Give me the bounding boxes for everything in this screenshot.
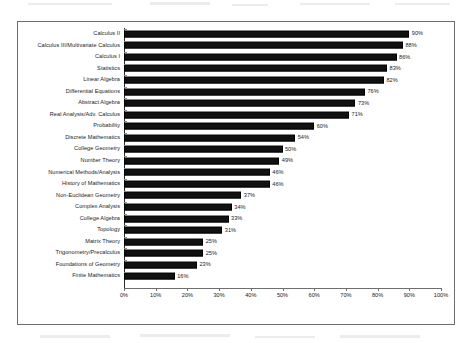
bar-category-label: Topology bbox=[18, 227, 124, 233]
y-axis-tick bbox=[124, 202, 127, 203]
x-axis-tick-label: 70% bbox=[340, 293, 351, 299]
x-axis-tick-label: 30% bbox=[213, 293, 224, 299]
x-axis-tick-label: 80% bbox=[372, 293, 383, 299]
x-axis-tick bbox=[409, 288, 410, 291]
y-axis-tick bbox=[124, 260, 127, 261]
bar-value-label: 25% bbox=[206, 239, 217, 245]
scan-artifact bbox=[255, 336, 315, 338]
bar-row: Real Analysis/Adv. Calculus71% bbox=[18, 109, 456, 121]
bar-row: Finite Mathematics16% bbox=[18, 270, 456, 282]
bar bbox=[124, 146, 283, 153]
y-axis-tick bbox=[124, 179, 127, 180]
bar-row: Number Theory49% bbox=[18, 155, 456, 167]
bar-zone: 76% bbox=[124, 86, 456, 98]
scan-artifact bbox=[150, 2, 210, 5]
y-axis-tick bbox=[124, 272, 127, 273]
x-axis-tick bbox=[378, 288, 379, 291]
bar-value-label: 88% bbox=[405, 43, 416, 49]
y-axis-tick bbox=[124, 41, 127, 42]
bar-zone: 49% bbox=[124, 155, 456, 167]
bar-value-label: 83% bbox=[390, 66, 401, 72]
bar-row: College Geometry50% bbox=[18, 143, 456, 155]
x-axis-tick bbox=[156, 288, 157, 291]
x-axis-tick bbox=[219, 288, 220, 291]
scan-artifact bbox=[300, 3, 370, 5]
bar-zone: 60% bbox=[124, 120, 456, 132]
bar bbox=[124, 157, 279, 164]
bar-value-label: 31% bbox=[225, 227, 236, 233]
bar-category-label: Non-Euclidean Geometry bbox=[18, 193, 124, 199]
bar-zone: 31% bbox=[124, 224, 456, 236]
bar-row: Probability60% bbox=[18, 120, 456, 132]
y-axis-tick bbox=[124, 145, 127, 146]
bar bbox=[124, 134, 295, 141]
bar bbox=[124, 65, 387, 72]
bar-category-label: Matrix Theory bbox=[18, 239, 124, 245]
bar-value-label: 49% bbox=[282, 158, 293, 164]
bar-value-label: 23% bbox=[199, 262, 210, 268]
y-axis-tick bbox=[124, 133, 127, 134]
bar-row: Abstract Algebra73% bbox=[18, 97, 456, 109]
bar-zone: 25% bbox=[124, 247, 456, 259]
x-axis-tick-label: 10% bbox=[150, 293, 161, 299]
y-axis-tick bbox=[124, 168, 127, 169]
bar bbox=[124, 76, 384, 83]
bar-zone: 33% bbox=[124, 213, 456, 225]
bar-category-label: Differential Equations bbox=[18, 89, 124, 95]
y-axis-tick bbox=[124, 156, 127, 157]
bar-category-label: Complex Analysis bbox=[18, 204, 124, 210]
scan-artifact bbox=[232, 4, 268, 6]
y-axis-tick bbox=[124, 191, 127, 192]
y-axis-tick bbox=[124, 237, 127, 238]
x-axis-tick bbox=[314, 288, 315, 291]
y-axis-tick bbox=[124, 121, 127, 122]
bar bbox=[124, 203, 232, 210]
y-axis-tick bbox=[124, 75, 127, 76]
bar-category-label: Calculus II bbox=[18, 31, 124, 37]
bar bbox=[124, 227, 222, 234]
bar-row: Numerical Methods/Analysis46% bbox=[18, 167, 456, 179]
bar-category-label: Probability bbox=[18, 123, 124, 129]
x-axis-tick-label: 50% bbox=[277, 293, 288, 299]
bar-value-label: 90% bbox=[412, 31, 423, 37]
bar-category-label: College Algebra bbox=[18, 216, 124, 222]
bar-row: Non-Euclidean Geometry37% bbox=[18, 190, 456, 202]
bar-category-label: Calculus III/Multivariate Calculus bbox=[18, 43, 124, 49]
y-axis-tick bbox=[124, 52, 127, 53]
x-axis-tick-label: 90% bbox=[404, 293, 415, 299]
bar-row: Calculus II90% bbox=[18, 28, 456, 40]
bar bbox=[124, 273, 175, 280]
x-axis-tick-label: 40% bbox=[245, 293, 256, 299]
bar-category-label: Statistics bbox=[18, 66, 124, 72]
x-axis-tick bbox=[283, 288, 284, 291]
bar-row: Complex Analysis34% bbox=[18, 201, 456, 213]
bar-value-label: 16% bbox=[177, 273, 188, 279]
bar-category-label: Number Theory bbox=[18, 158, 124, 164]
bar-zone: 54% bbox=[124, 132, 456, 144]
bar-row: Foundations of Geometry23% bbox=[18, 259, 456, 271]
bar-row: Linear Algebra82% bbox=[18, 74, 456, 86]
bar-row: College Algebra33% bbox=[18, 213, 456, 225]
x-axis-tick bbox=[441, 288, 442, 291]
x-axis-tick bbox=[187, 288, 188, 291]
bar bbox=[124, 100, 355, 107]
bar bbox=[124, 88, 365, 95]
x-axis-tick bbox=[251, 288, 252, 291]
bar-value-label: 50% bbox=[285, 146, 296, 152]
bar-zone: 50% bbox=[124, 143, 456, 155]
bar-category-label: Finite Mathematics bbox=[18, 273, 124, 279]
bar-zone: 88% bbox=[124, 40, 456, 52]
y-axis-tick bbox=[124, 29, 127, 30]
bar-value-label: 46% bbox=[272, 170, 283, 176]
bar-zone: 34% bbox=[124, 201, 456, 213]
bar-value-label: 76% bbox=[367, 89, 378, 95]
bar-zone: 82% bbox=[124, 74, 456, 86]
bar-row: Trigonometry/Precalculus25% bbox=[18, 247, 456, 259]
bar-zone: 83% bbox=[124, 63, 456, 75]
bar-category-label: Numerical Methods/Analysis bbox=[18, 170, 124, 176]
bar-category-label: Real Analysis/Adv. Calculus bbox=[18, 112, 124, 118]
bar-category-label: Discrete Mathematics bbox=[18, 135, 124, 141]
scan-artifact bbox=[395, 3, 450, 5]
bar-value-label: 73% bbox=[358, 100, 369, 106]
chart-frame: Calculus II90%Calculus III/Multivariate … bbox=[17, 21, 455, 325]
